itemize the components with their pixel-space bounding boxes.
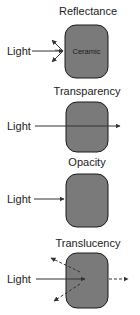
light-label: Light — [7, 120, 31, 132]
panel-title: Reflectance — [59, 5, 117, 17]
transparent-block — [66, 102, 108, 152]
light-label: Light — [7, 45, 31, 57]
panel-translucency: Translucency Light — [7, 237, 128, 308]
material-label: Ceramic — [73, 47, 101, 56]
panel-title: Opacity — [68, 156, 106, 168]
panel-title: Translucency — [55, 237, 121, 249]
reflected-arrow-up — [52, 40, 63, 51]
opaque-block — [66, 174, 108, 227]
panel-reflectance: Reflectance Ceramic Light — [7, 5, 117, 78]
panel-transparency: Transparency Light — [7, 85, 121, 152]
light-label: Light — [7, 193, 31, 205]
panel-opacity: Opacity Light — [7, 156, 108, 227]
translucent-block — [66, 253, 108, 308]
light-interaction-diagram: Reflectance Ceramic Light Transparency L… — [0, 0, 140, 315]
light-label: Light — [7, 273, 31, 285]
reflected-arrow-down — [52, 51, 63, 62]
panel-title: Transparency — [54, 85, 121, 97]
